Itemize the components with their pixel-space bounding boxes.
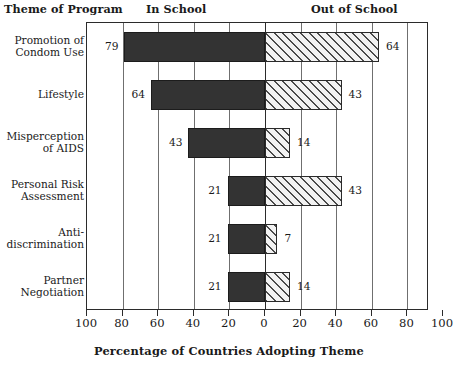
value-label-in-school: 21	[194, 280, 222, 292]
x-tick-label: 60	[363, 316, 378, 330]
x-tick-label: 40	[328, 316, 343, 330]
x-tick-label: 20	[221, 316, 236, 330]
bar-out-of-school	[265, 80, 342, 110]
category-label: Partner Negotiation	[0, 274, 84, 299]
category-label: Anti- discrimination	[0, 226, 84, 251]
in-school-column-header: In School	[146, 2, 206, 16]
bar-out-of-school	[265, 128, 290, 158]
value-label-out-of-school: 64	[386, 40, 414, 52]
value-label-out-of-school: 43	[349, 184, 377, 196]
chart-header: Theme of Program In School Out of School	[0, 0, 458, 22]
x-tick-label: 0	[260, 316, 267, 330]
theme-column-header: Theme of Program	[4, 2, 123, 16]
category-label: Misperception of AIDS	[0, 130, 84, 155]
chart-row: 7964	[87, 23, 427, 71]
value-label-in-school: 64	[117, 88, 145, 100]
bar-in-school	[228, 176, 265, 206]
x-axis-title: Percentage of Countries Adopting Theme	[0, 344, 458, 358]
plot-area: 79646443431421432172114	[86, 22, 428, 310]
x-tick-label: 80	[114, 316, 129, 330]
category-label: Promotion of Condom Use	[0, 34, 84, 59]
x-tick-label: 40	[185, 316, 200, 330]
x-tick-label: 100	[431, 316, 453, 330]
chart-row: 4314	[87, 119, 427, 167]
value-label-out-of-school: 14	[297, 136, 325, 148]
value-label-out-of-school: 7	[284, 232, 312, 244]
bar-in-school	[228, 224, 265, 254]
x-tick-label: 60	[150, 316, 165, 330]
chart-row: 6443	[87, 71, 427, 119]
x-tick-label: 80	[399, 316, 414, 330]
bar-in-school	[151, 80, 265, 110]
bar-in-school	[228, 272, 265, 302]
bar-out-of-school	[265, 224, 277, 254]
x-tick-label: 20	[292, 316, 307, 330]
value-label-in-school: 79	[90, 40, 118, 52]
chart-row: 217	[87, 215, 427, 263]
bar-in-school	[124, 32, 265, 62]
value-label-in-school: 43	[154, 136, 182, 148]
chart-row: 2114	[87, 263, 427, 311]
value-label-out-of-school: 14	[297, 280, 325, 292]
category-axis-labels: Promotion of Condom UseLifestyleMisperce…	[0, 22, 84, 310]
bar-out-of-school	[265, 32, 379, 62]
gridline	[443, 23, 444, 309]
value-label-in-school: 21	[194, 232, 222, 244]
out-of-school-column-header: Out of School	[311, 2, 398, 16]
bar-in-school	[188, 128, 265, 158]
value-label-in-school: 21	[194, 184, 222, 196]
value-label-out-of-school: 43	[349, 88, 377, 100]
x-axis-tick-labels: 10080604020020406080100	[0, 316, 458, 334]
bar-out-of-school	[265, 176, 342, 206]
chart-row: 2143	[87, 167, 427, 215]
x-tick-label: 100	[75, 316, 97, 330]
category-label: Personal Risk Assessment	[0, 178, 84, 203]
category-label: Lifestyle	[0, 88, 84, 100]
bar-out-of-school	[265, 272, 290, 302]
